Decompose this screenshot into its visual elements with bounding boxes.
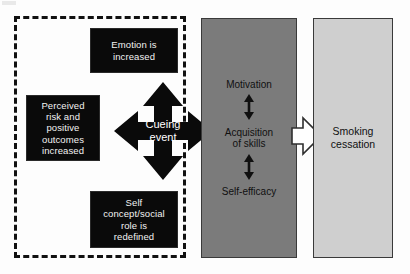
concept-box-self-concept-label: Self concept/social role is redefined — [103, 197, 165, 242]
concept-box-perceived-risk-label: Perceived risk and positive outcomes inc… — [41, 100, 84, 156]
diagram-canvas: Emotion is increased Perceived risk and … — [0, 0, 410, 274]
concept-box-self-concept[interactable]: Self concept/social role is redefined — [90, 191, 178, 248]
double-headed-vertical-arrow-icon-2 — [242, 154, 256, 183]
outcome-box[interactable]: Smoking cessation — [313, 18, 393, 258]
process-item-motivation: Motivation — [226, 79, 272, 91]
process-item-self-efficacy: Self-efficacy — [222, 186, 276, 198]
process-stack: Motivation Acquisition of skills Self-ef… — [202, 79, 296, 198]
four-way-arrow-icon — [114, 82, 212, 180]
concept-box-perceived-risk[interactable]: Perceived risk and positive outcomes inc… — [26, 95, 100, 161]
process-item-acquisition-of-skills: Acquisition of skills — [225, 127, 273, 150]
concept-box-emotion-label: Emotion is increased — [111, 39, 156, 61]
double-headed-vertical-arrow-icon-1 — [242, 94, 256, 123]
outcome-box-label: Smoking cessation — [331, 125, 375, 150]
scan-artifact — [2, 1, 16, 5]
process-box[interactable]: Motivation Acquisition of skills Self-ef… — [201, 18, 297, 258]
concept-box-emotion[interactable]: Emotion is increased — [90, 28, 178, 73]
